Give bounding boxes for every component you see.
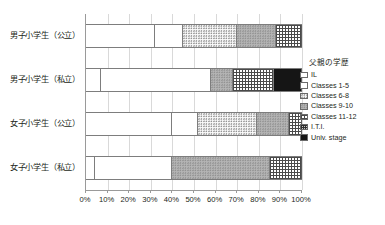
legend-item-label: I.T.I. bbox=[311, 123, 325, 131]
x-axis-tick bbox=[301, 190, 302, 193]
stacked-bar-chart: 男子小学生（公立）男子小学生（私立）女子小学生（公立）女子小学生（私立） 父親の… bbox=[0, 0, 385, 225]
x-axis-tick bbox=[215, 190, 216, 193]
x-axis-tick bbox=[85, 190, 86, 193]
bar-segment bbox=[257, 113, 289, 135]
bar-segment bbox=[274, 69, 302, 91]
y-axis-label: 女子小学生（公立） bbox=[0, 119, 80, 128]
legend-item[interactable]: Univ. stage bbox=[300, 132, 385, 142]
bar-segment bbox=[270, 157, 302, 179]
bar-segment bbox=[233, 69, 274, 91]
y-axis-label: 男子小学生（公立） bbox=[0, 31, 80, 40]
legend-swatch-icon bbox=[300, 82, 308, 89]
bar-segment bbox=[101, 69, 211, 91]
bar-segment bbox=[211, 69, 233, 91]
legend-item[interactable]: I.T.I. bbox=[300, 122, 385, 132]
x-axis-tick bbox=[236, 190, 237, 193]
bar-row bbox=[86, 156, 302, 180]
bar-segment bbox=[95, 157, 173, 179]
x-axis-tick bbox=[171, 190, 172, 193]
legend-item[interactable]: IL bbox=[300, 70, 385, 80]
legend-item-label: Classes 6-8 bbox=[311, 92, 349, 100]
y-axis-label: 女子小学生（私立） bbox=[0, 163, 80, 172]
legend-item[interactable]: Classes 1-5 bbox=[300, 80, 385, 90]
bar-segment bbox=[198, 113, 256, 135]
legend: 父親の学歴 ILClasses 1-5Classes 6-8Classes 9-… bbox=[300, 58, 385, 143]
x-axis-tick bbox=[193, 190, 194, 193]
legend-swatch-icon bbox=[300, 134, 308, 141]
legend-title: 父親の学歴 bbox=[309, 58, 385, 68]
bar-row bbox=[86, 24, 302, 48]
legend-item[interactable]: Classes 6-8 bbox=[300, 91, 385, 101]
legend-item-label: Classes 1-5 bbox=[311, 82, 349, 90]
legend-item-label: IL bbox=[311, 71, 317, 79]
legend-swatch-icon bbox=[300, 72, 308, 79]
bar-segment bbox=[86, 69, 101, 91]
legend-swatch-icon bbox=[300, 114, 308, 121]
bar-row bbox=[86, 68, 302, 92]
bar-segment bbox=[86, 113, 172, 135]
legend-swatch-icon bbox=[300, 103, 308, 110]
y-axis-label: 男子小学生（私立） bbox=[0, 75, 80, 84]
bar-segment bbox=[183, 25, 237, 47]
legend-swatch-icon bbox=[300, 93, 308, 100]
bar-segment bbox=[276, 25, 302, 47]
y-axis-category-labels: 男子小学生（公立）男子小学生（私立）女子小学生（公立）女子小学生（私立） bbox=[0, 14, 83, 190]
bar-segment bbox=[172, 113, 198, 135]
plot-area bbox=[85, 14, 302, 190]
bar-segment bbox=[237, 25, 276, 47]
x-axis-tick-label: 100% bbox=[286, 195, 316, 204]
bar-segment bbox=[172, 157, 269, 179]
bar-row bbox=[86, 112, 302, 136]
x-axis-tick bbox=[107, 190, 108, 193]
legend-items: ILClasses 1-5Classes 6-8Classes 9-10Clas… bbox=[300, 70, 385, 143]
legend-item-label: Classes 11-12 bbox=[311, 113, 356, 121]
bar-segment bbox=[86, 157, 95, 179]
x-axis-tick bbox=[279, 190, 280, 193]
legend-item[interactable]: Classes 11-12 bbox=[300, 112, 385, 122]
x-axis-tick bbox=[150, 190, 151, 193]
bar-segment bbox=[155, 25, 183, 47]
legend-item[interactable]: Classes 9-10 bbox=[300, 101, 385, 111]
legend-item-label: Univ. stage bbox=[311, 134, 346, 142]
x-axis-tick bbox=[128, 190, 129, 193]
legend-swatch-icon bbox=[300, 124, 308, 131]
bar-segment bbox=[86, 25, 155, 47]
x-axis-tick bbox=[258, 190, 259, 193]
legend-item-label: Classes 9-10 bbox=[311, 102, 353, 110]
